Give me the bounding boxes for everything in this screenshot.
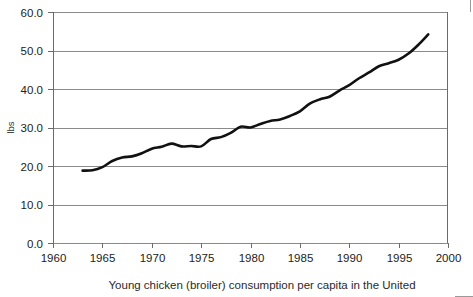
- y-tick-label-0.0: 0.0: [27, 238, 43, 250]
- y-tick-label-40.0: 40.0: [21, 84, 43, 96]
- x-tick-label-1990: 1990: [337, 252, 363, 264]
- y-tick-label-60.0: 60.0: [21, 7, 43, 19]
- y-tick-label-30.0: 30.0: [21, 122, 43, 134]
- data-line-series-0: [83, 34, 429, 170]
- x-tick-label-1985: 1985: [288, 252, 314, 264]
- x-tick-label-1970: 1970: [140, 252, 166, 264]
- x-tick-label-1980: 1980: [239, 252, 265, 264]
- y-tick-label-10.0: 10.0: [21, 199, 43, 211]
- chart-figure: 0.010.020.030.040.050.060.01960196519701…: [0, 0, 473, 297]
- chart-caption: Young chicken (broiler) consumption per …: [108, 279, 415, 291]
- y-tick-label-50.0: 50.0: [21, 45, 43, 57]
- x-tick-label-2000: 2000: [436, 252, 462, 264]
- y-tick-label-20.0: 20.0: [21, 161, 43, 173]
- line-chart: 0.010.020.030.040.050.060.01960196519701…: [0, 0, 473, 297]
- x-tick-label-1995: 1995: [387, 252, 413, 264]
- x-tick-label-1960: 1960: [41, 252, 67, 264]
- y-axis-title: lbs: [5, 121, 16, 133]
- x-tick-label-1975: 1975: [189, 252, 215, 264]
- x-tick-label-1965: 1965: [90, 252, 116, 264]
